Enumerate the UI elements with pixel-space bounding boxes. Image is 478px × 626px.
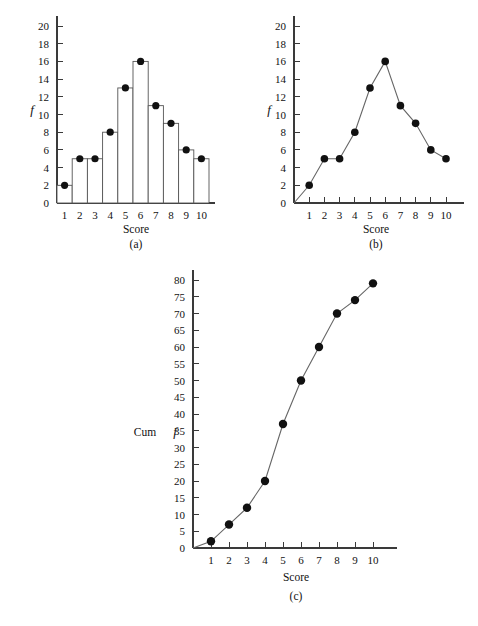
ogive-line (193, 283, 373, 548)
y-tick-label: 80 (174, 274, 186, 286)
y-tick-label: 20 (174, 475, 186, 487)
panel-a-y-ticks (57, 26, 63, 185)
data-point-marker (152, 102, 159, 109)
y-tick-label: 60 (174, 341, 186, 353)
y-tick-label: 40 (174, 408, 186, 420)
data-point-marker (279, 420, 287, 428)
x-tick-label: 6 (298, 554, 304, 566)
y-tick-label: 18 (275, 38, 287, 50)
x-tick-label: 5 (367, 209, 373, 221)
y-tick-label: 16 (275, 55, 287, 67)
x-tick-label: 3 (244, 554, 250, 566)
panel-c-axes (193, 270, 397, 548)
panel-a-svg: 02468101214161820 12345678910 f Score (a… (0, 0, 236, 252)
panel-c-caption: (c) (290, 590, 303, 603)
histogram-bar (72, 159, 87, 203)
panel-c-y-ticks (193, 280, 199, 531)
x-tick-label: 5 (123, 209, 129, 221)
x-tick-label: 2 (77, 209, 83, 221)
x-tick-label: 10 (441, 209, 453, 221)
data-point-marker (412, 120, 420, 128)
y-tick-label: 10 (174, 509, 186, 521)
data-point-marker (167, 120, 174, 127)
y-tick-label: 50 (174, 375, 186, 387)
data-point-marker (315, 343, 323, 351)
data-point-marker (442, 155, 450, 163)
data-point-marker (122, 84, 129, 91)
panel-b-y-axis-title: f (267, 102, 273, 117)
y-tick-label: 75 (174, 291, 186, 303)
x-tick-label: 9 (183, 209, 189, 221)
panel-a-bars (57, 61, 209, 203)
data-point-marker (397, 102, 405, 110)
data-point-marker (261, 477, 269, 485)
y-tick-label: 8 (281, 126, 287, 138)
histogram-bar (133, 61, 148, 203)
x-tick-label: 2 (322, 209, 328, 221)
y-tick-label: 65 (174, 324, 186, 336)
y-tick-label: 15 (174, 492, 186, 504)
x-tick-label: 4 (352, 209, 358, 221)
panel-b-x-ticks (309, 197, 446, 203)
panel-b-y-tick-labels: 02468101214161820 (275, 20, 287, 209)
y-tick-label: 0 (180, 542, 186, 554)
panel-c-x-tick-labels: 12345678910 (208, 554, 379, 566)
data-point-marker (333, 309, 341, 317)
data-point-marker (243, 504, 251, 512)
y-tick-label: 2 (281, 179, 287, 191)
panel-b-markers (305, 58, 449, 190)
histogram-bar (179, 150, 194, 203)
histogram-bar (118, 88, 133, 203)
x-tick-label: 4 (107, 209, 113, 221)
data-point-marker (336, 155, 344, 163)
y-tick-label: 0 (44, 197, 50, 209)
data-point-marker (198, 155, 205, 162)
histogram-bar (103, 132, 118, 203)
frequency-polygon-line (294, 61, 446, 203)
histogram-bar (87, 159, 102, 203)
data-point-marker (225, 520, 233, 528)
data-point-marker (427, 146, 435, 154)
y-tick-label: 6 (44, 144, 50, 156)
histogram-bar (194, 159, 209, 203)
x-tick-label: 7 (316, 554, 322, 566)
data-point-marker (366, 84, 374, 92)
y-tick-label: 4 (44, 162, 50, 174)
y-tick-label: 5 (180, 525, 186, 537)
x-tick-label: 8 (168, 209, 174, 221)
x-tick-label: 10 (196, 209, 208, 221)
data-point-marker (137, 58, 144, 65)
y-tick-label: 2 (44, 179, 50, 191)
y-tick-label: 55 (174, 358, 186, 370)
y-tick-label: 4 (281, 162, 287, 174)
data-point-marker (61, 182, 68, 189)
y-tick-label: 12 (38, 91, 49, 103)
panel-c-x-axis-title: Score (283, 571, 309, 583)
y-tick-label: 30 (174, 442, 186, 454)
data-point-marker (207, 537, 215, 545)
x-tick-label: 9 (352, 554, 358, 566)
panel-c-cumulative-frequency: 05101520253035404550556065707580 1234567… (100, 258, 430, 626)
panel-b-y-ticks (294, 26, 300, 185)
panel-b-axes (294, 16, 464, 203)
y-tick-label: 14 (38, 73, 50, 85)
data-point-marker (76, 155, 83, 162)
data-point-marker (351, 128, 359, 136)
panel-a-y-axis-title: f (30, 102, 36, 117)
panel-a-x-axis-title: Score (123, 223, 149, 235)
y-tick-label: 8 (44, 126, 50, 138)
panel-c-y-axis-title-prefix: Cum (134, 426, 156, 438)
x-tick-label: 6 (382, 209, 388, 221)
panel-a-y-tick-labels: 02468101214161820 (38, 20, 50, 209)
data-point-marker (305, 182, 313, 190)
x-tick-label: 1 (62, 209, 68, 221)
x-tick-label: 8 (413, 209, 419, 221)
data-point-marker (297, 376, 305, 384)
y-tick-label: 70 (174, 308, 186, 320)
x-tick-label: 7 (153, 209, 159, 221)
panel-c-line-series (193, 283, 373, 548)
panel-c-x-ticks (211, 542, 373, 548)
panel-b-frequency-polygon: 02468101214161820 12345678910 f Score (b… (238, 0, 478, 252)
y-tick-label: 18 (38, 38, 50, 50)
panel-b-x-tick-labels: 12345678910 (306, 209, 452, 221)
